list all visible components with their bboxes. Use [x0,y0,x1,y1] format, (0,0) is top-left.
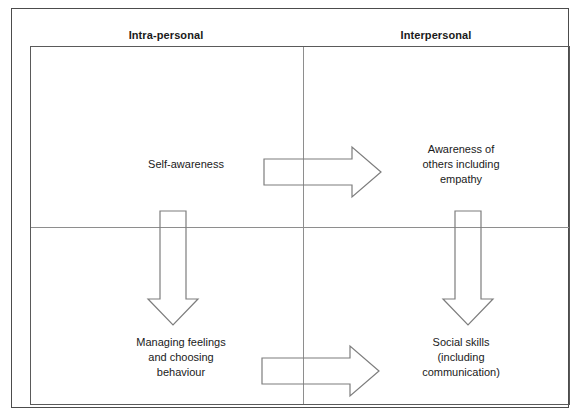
quadrant-label-managing-feelings: Managing feelings and choosing behaviour [81,335,281,380]
column-heading-intra-personal: Intra-personal [30,29,302,41]
arrow-right-icon-bottom [260,344,382,398]
arrow-down-icon-left [146,209,200,327]
quadrant-label-self-awareness: Self-awareness [86,157,286,172]
column-heading-interpersonal: Interpersonal [302,29,570,41]
quadrant-matrix: Self-awareness Awareness of others inclu… [30,46,570,405]
arrow-right-icon-top [262,145,384,199]
quadrant-label-social-skills: Social skills (including communication) [361,335,561,380]
diagram-canvas: Intra-personal Interpersonal Self-awaren… [0,0,576,418]
page-frame: Intra-personal Interpersonal Self-awaren… [11,8,569,408]
quadrant-label-awareness-of-others: Awareness of others including empathy [361,142,561,187]
arrow-down-icon-right [441,209,495,327]
